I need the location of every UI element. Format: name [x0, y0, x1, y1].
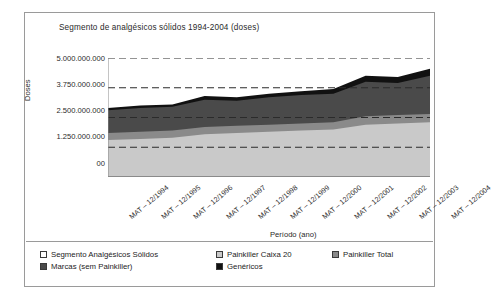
legend-item-marcas-sem-painkiller[interactable]: Marcas (sem Painkiller)	[40, 262, 216, 271]
legend-label: Marcas (sem Painkiller)	[51, 262, 132, 271]
chart-figure: Segmento de analgésicos sólidos 1994-200…	[24, 12, 435, 287]
legend-item-genericos[interactable]: Genéricos	[216, 262, 332, 271]
legend-label: Genéricos	[227, 262, 263, 271]
legend-item-segmento-analgesicos-solidos[interactable]: Segmento Analgésicos Sólidos	[40, 250, 216, 259]
y-tick-label: 3.750.000.000	[56, 80, 105, 89]
x-axis-tick-labels: MAT – 12/1994MAT – 12/1995MAT – 12/1996M…	[25, 13, 436, 73]
legend-swatch-icon	[216, 251, 223, 258]
plot-area	[108, 58, 430, 177]
legend-row: Segmento Analgésicos Sólidos Painkiller …	[36, 250, 433, 259]
legend-swatch-icon	[40, 251, 47, 258]
legend-swatch-icon	[40, 263, 47, 270]
stacked-area-plot	[108, 58, 430, 177]
legend-item-painkiller-caixa-20[interactable]: Painkiller Caixa 20	[216, 250, 332, 259]
legend-label: Segmento Analgésicos Sólidos	[51, 250, 158, 259]
legend-swatch-icon	[332, 251, 339, 258]
y-axis-title: Doses	[23, 79, 32, 101]
legend-row: Marcas (sem Painkiller) Genéricos	[36, 262, 433, 271]
y-tick-label: 1.250.000.000	[56, 132, 105, 141]
x-axis-title: Período (ano)	[270, 230, 316, 239]
chart-legend: Segmento Analgésicos Sólidos Painkiller …	[26, 241, 433, 285]
legend-label: Painkiller Caixa 20	[227, 250, 292, 259]
y-tick-label: 2.500.000.000	[56, 106, 105, 115]
y-tick-label: 00	[97, 159, 105, 168]
legend-item-painkiller-total[interactable]: Painkiller Total	[332, 250, 393, 259]
series-areas	[108, 69, 430, 177]
legend-swatch-icon	[216, 263, 223, 270]
legend-label: Painkiller Total	[343, 250, 393, 259]
